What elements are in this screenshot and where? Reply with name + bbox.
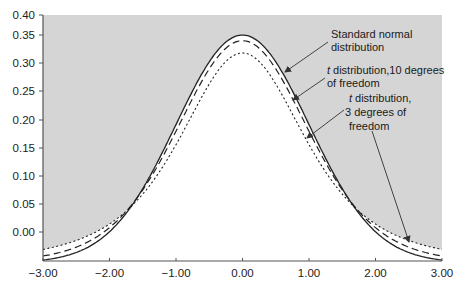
- y-tick-label: 0.30: [13, 57, 35, 69]
- y-tick-label: 0.00: [13, 226, 35, 238]
- x-tick-label: 3.00: [431, 267, 453, 279]
- y-tick-label: 0.10: [13, 170, 35, 182]
- x-tick-label: −1.00: [161, 267, 190, 279]
- y-tick-label: 0.05: [13, 198, 35, 210]
- x-tick-label: −2.00: [95, 267, 124, 279]
- x-tick-label: 2.00: [364, 267, 386, 279]
- y-tick-label: 0.35: [13, 29, 35, 41]
- x-tick-label: −3.00: [28, 267, 57, 279]
- y-axis-ticks: 0.400.350.300.250.200.150.100.050.00: [13, 9, 43, 238]
- distribution-chart: 0.400.350.300.250.200.150.100.050.00 −3.…: [0, 0, 459, 294]
- x-tick-label: 0.00: [231, 267, 253, 279]
- y-tick-label: 0.25: [13, 85, 35, 97]
- x-tick-label: 1.00: [298, 267, 320, 279]
- y-tick-label: 0.40: [13, 9, 35, 21]
- y-tick-label: 0.15: [13, 142, 35, 154]
- y-tick-label: 0.20: [13, 114, 35, 126]
